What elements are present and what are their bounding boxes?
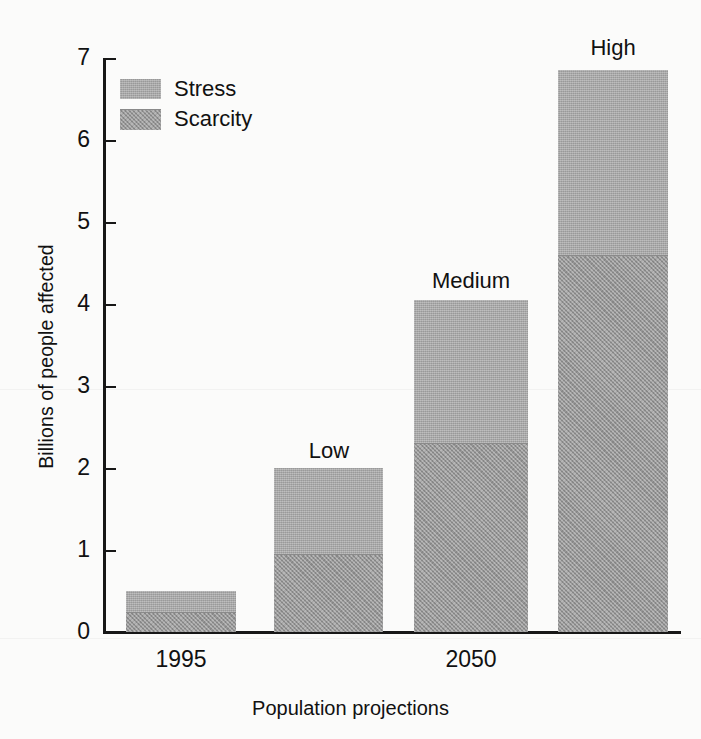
bar-1995[interactable]: [126, 591, 236, 632]
bar-segment-stress: [274, 468, 383, 554]
chart-figure: 7 6 5 4 3 2 1 0 Billions of people affec: [0, 0, 701, 739]
y-tick-label-6: 6: [50, 128, 90, 151]
legend-label-scarcity: Scarcity: [174, 108, 252, 130]
y-tick-label-1: 1: [50, 538, 90, 561]
bar-segment-scarcity: [558, 255, 668, 632]
bar-segment-scarcity: [414, 443, 528, 632]
y-axis-title: Billions of people affected: [35, 207, 58, 507]
x-group-label-2050: 2050: [414, 648, 528, 671]
legend-swatch-stress-icon: [120, 79, 161, 99]
bar-segment-stress: [414, 300, 528, 444]
bar-segment-scarcity: [274, 554, 383, 632]
y-tick-label-0: 0: [50, 620, 90, 643]
bar-caption-medium: Medium: [404, 270, 538, 292]
chart-legend: Stress Scarcity: [120, 76, 252, 136]
bar-segment-stress: [558, 70, 668, 255]
x-group-label-1995: 1995: [126, 648, 236, 671]
plot-area: [103, 58, 681, 632]
bar-segment-stress: [126, 591, 236, 612]
bar-caption-low: Low: [274, 440, 384, 462]
bar-low[interactable]: [274, 468, 383, 632]
x-axis-title: Population projections: [0, 697, 701, 720]
legend-item-stress[interactable]: Stress: [120, 76, 252, 102]
legend-label-stress: Stress: [174, 78, 236, 100]
legend-item-scarcity[interactable]: Scarcity: [120, 106, 252, 132]
y-tick-label-7: 7: [50, 46, 90, 69]
bar-caption-high: High: [558, 37, 668, 59]
bar-high[interactable]: [558, 70, 668, 632]
bar-segment-scarcity: [126, 612, 236, 633]
bar-medium[interactable]: [414, 300, 528, 632]
legend-swatch-scarcity-icon: [120, 109, 161, 130]
